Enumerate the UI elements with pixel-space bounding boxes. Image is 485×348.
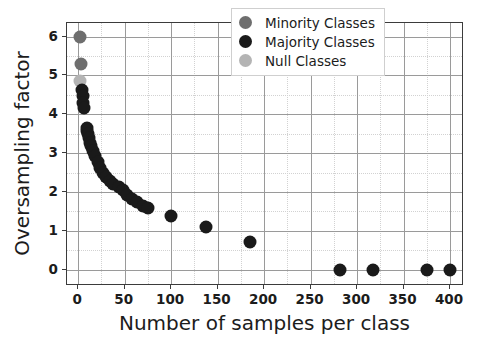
y-tick-label: 2 — [49, 183, 58, 199]
gridline-horizontal — [67, 114, 462, 115]
x-tick-mark — [77, 285, 78, 289]
data-point — [77, 102, 90, 115]
y-tick-label: 3 — [49, 144, 58, 160]
data-point — [334, 263, 347, 276]
data-point — [165, 209, 178, 222]
y-axis-title: Oversampling factor — [10, 22, 38, 285]
legend-label: Majority Classes — [265, 34, 375, 50]
legend-marker-icon — [239, 54, 252, 67]
x-tick-mark — [124, 285, 125, 289]
x-tick-label: 350 — [388, 291, 416, 307]
data-point — [74, 57, 87, 70]
x-tick-mark — [263, 285, 264, 289]
x-tick-label: 250 — [295, 291, 323, 307]
x-tick-label: 300 — [342, 291, 370, 307]
data-point — [366, 263, 379, 276]
x-tick-label: 150 — [203, 291, 231, 307]
y-tick-label: 6 — [49, 28, 58, 44]
x-tick-mark — [217, 285, 218, 289]
legend-item: Null Classes — [239, 51, 375, 70]
x-tick-mark — [310, 285, 311, 289]
legend-marker-icon — [239, 35, 252, 48]
legend: Minority ClassesMajority ClassesNull Cla… — [231, 8, 385, 76]
scatter-plot-figure: Oversampling factor 0123456 050100150200… — [0, 0, 485, 348]
legend-label: Null Classes — [265, 53, 346, 69]
x-tick-mark — [356, 285, 357, 289]
x-tick-label: 200 — [249, 291, 277, 307]
legend-marker-icon — [239, 16, 252, 29]
x-tick-label: 100 — [156, 291, 184, 307]
x-tick-mark — [403, 285, 404, 289]
legend-label: Minority Classes — [265, 15, 375, 31]
y-tick-label: 5 — [49, 66, 58, 82]
legend-item: Minority Classes — [239, 13, 375, 32]
data-point — [141, 202, 154, 215]
x-tick-label: 50 — [114, 291, 133, 307]
x-tick-label: 0 — [72, 291, 81, 307]
x-axis-title: Number of samples per class — [66, 311, 463, 335]
data-point — [444, 263, 457, 276]
gridline-horizontal — [67, 231, 462, 232]
data-point — [74, 30, 87, 43]
y-tick-label: 1 — [49, 222, 58, 238]
x-tick-mark — [170, 285, 171, 289]
x-tick-label: 400 — [435, 291, 463, 307]
data-point — [199, 220, 212, 233]
legend-item: Majority Classes — [239, 32, 375, 51]
gridline-horizontal — [67, 153, 462, 154]
x-tick-mark — [449, 285, 450, 289]
y-tick-label: 4 — [49, 105, 58, 121]
data-point — [244, 236, 257, 249]
gridline-horizontal — [67, 270, 462, 271]
y-tick-label: 0 — [49, 261, 58, 277]
data-point — [420, 263, 433, 276]
